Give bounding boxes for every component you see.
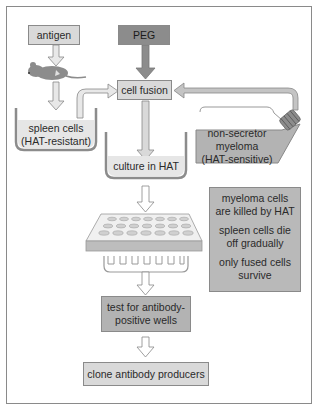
test-box: test for antibody- positive wells	[101, 296, 191, 332]
myeloma-line2: myeloma	[216, 140, 259, 153]
note-2: spleen cells die off gradually	[213, 224, 297, 250]
culture-label: culture in HAT	[108, 157, 184, 175]
arrow-spleen-to-fusion	[77, 84, 118, 118]
peg-box: PEG	[118, 25, 170, 45]
arrow-peg-to-fusion	[136, 45, 155, 79]
notes-box: myeloma cells are killed by HAT spleen c…	[209, 187, 301, 292]
clone-box: clone antibody producers	[83, 362, 209, 386]
test-line2: positive wells	[115, 314, 177, 327]
well-plate-icon	[86, 214, 202, 251]
test-line1: test for antibody-	[107, 301, 185, 314]
spleen-cells-label: spleen cells (HAT-resistant)	[18, 122, 94, 148]
note-1: myeloma cells are killed by HAT	[213, 192, 297, 218]
antigen-box: antigen	[28, 25, 80, 45]
arrow-plate-to-test	[137, 272, 154, 295]
spleen-cells-line2: (HAT-resistant)	[21, 135, 91, 148]
myeloma-line3: (HAT-sensitive)	[202, 153, 273, 166]
comb-icon	[104, 256, 188, 272]
arrow-myeloma-to-fusion	[174, 83, 298, 110]
myeloma-label: non-secretor myeloma (HAT-sensitive)	[200, 130, 274, 163]
arrow-culture-to-plate	[137, 186, 154, 212]
arrow-mouse-to-spleen	[48, 82, 64, 110]
arrow-fusion-to-culture	[137, 101, 154, 160]
arrow-test-to-clone	[137, 337, 154, 357]
note-3: only fused cells survive	[213, 256, 297, 282]
cell-fusion-box: cell fusion	[117, 80, 172, 100]
arrow-antigen-to-mouse	[48, 45, 64, 66]
spleen-cells-line1: spleen cells	[29, 122, 84, 135]
myeloma-line1: non-secretor	[208, 127, 267, 140]
